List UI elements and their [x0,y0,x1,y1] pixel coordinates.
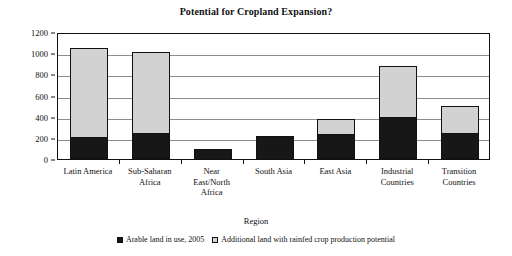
x-axis-labels: Latin AmericaSub-Saharan AfricaNear East… [57,166,490,214]
y-axis-tick-label: 0 [44,155,48,165]
x-axis-tick [181,160,182,164]
chart-title: Potential for Cropland Expansion? [0,6,512,17]
y-axis-tick-label: 400 [35,113,48,123]
x-axis-tick [304,160,305,164]
bar-segment-additional-land [441,106,479,133]
bar-segment-arable-land [441,133,479,159]
y-axis-tick-label: 600 [35,92,48,102]
y-axis-tick-label: 800 [35,70,48,80]
bar-group [256,136,294,159]
legend-swatch-icon [212,237,218,243]
y-axis-labels: 020040060080010001200 [0,33,55,160]
x-axis-category-label: Transition Countries [420,166,498,187]
y-axis-tick [51,138,55,139]
legend-item: Additional land with rainfed crop produc… [212,235,395,244]
bar-group [379,66,417,159]
y-axis-tick-label: 1000 [31,49,48,59]
bar-segment-additional-land [132,52,170,133]
y-axis-tick [51,75,55,76]
bar-group [70,48,108,159]
bar-group [441,106,479,159]
x-axis-tick [119,160,120,164]
y-axis-tick [51,160,55,161]
y-axis-tick-label: 1200 [31,28,48,38]
bar-group [194,149,232,159]
chart-legend: Arable land in use, 2005Additional land … [0,235,512,244]
bar-segment-arable-land [194,149,232,159]
x-axis-tick [243,160,244,164]
x-axis-title: Region [0,216,512,226]
bar-segment-additional-land [317,119,355,133]
bar-segment-additional-land [379,66,417,117]
bar-segment-arable-land [132,133,170,159]
bar-segment-arable-land [317,134,355,159]
legend-item: Arable land in use, 2005 [117,235,204,244]
bar-segment-arable-land [379,117,417,159]
legend-swatch-icon [117,237,123,243]
bar-group [317,119,355,159]
y-axis-tick [51,117,55,118]
y-axis-tick [51,96,55,97]
x-axis-tick [366,160,367,164]
bar-segment-additional-land [70,48,108,137]
y-axis-tick [51,33,55,34]
bar-group [132,52,170,159]
bar-series [58,34,489,159]
x-axis-tick [428,160,429,164]
chart-container: Potential for Cropland Expansion? Millio… [0,0,512,256]
y-axis-tick-label: 200 [35,134,48,144]
y-axis-tick [51,54,55,55]
bar-segment-arable-land [70,137,108,159]
plot-area [57,33,490,160]
legend-label: Additional land with rainfed crop produc… [221,235,395,244]
x-axis-ticks [57,160,490,164]
legend-label: Arable land in use, 2005 [126,235,204,244]
bar-segment-arable-land [256,136,294,159]
